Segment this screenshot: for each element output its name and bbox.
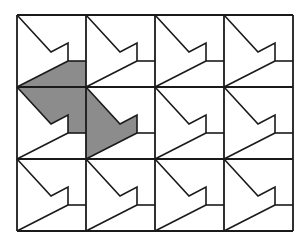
diagonal-segment [224, 61, 275, 87]
diagonal-segment [17, 205, 68, 231]
zigzag-line [86, 159, 137, 205]
zigzag-line [155, 159, 206, 205]
shaded-region [17, 61, 86, 87]
zigzag-line [155, 87, 206, 133]
diagonal-segment [155, 133, 206, 159]
zigzag-line [224, 159, 275, 205]
zigzag-line [17, 15, 68, 61]
zigzag-line [224, 15, 275, 61]
zigzag-line [86, 15, 137, 61]
diagonal-segment [155, 205, 206, 231]
diagonal-segment [224, 133, 275, 159]
shaded-region [17, 87, 86, 133]
zigzag-line [155, 15, 206, 61]
diagonal-segment [155, 61, 206, 87]
diagonal-segment [86, 61, 137, 87]
diagonal-segment [86, 205, 137, 231]
diagonal-segment [224, 205, 275, 231]
shaded-region [86, 87, 137, 159]
tessellation-diagram [0, 0, 307, 247]
zigzag-line [224, 87, 275, 133]
zigzag-line [17, 159, 68, 205]
diagonal-segment [17, 133, 68, 159]
shaded-tile [17, 61, 137, 159]
